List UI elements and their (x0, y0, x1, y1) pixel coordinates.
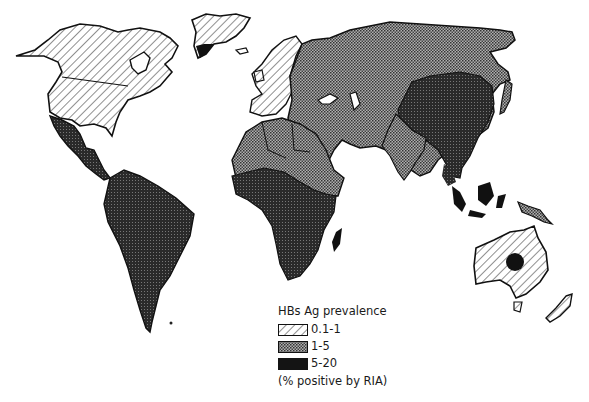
stipple-swatch-icon (278, 341, 308, 353)
legend-title: HBs Ag prevalence (278, 303, 387, 320)
region-south-america (104, 170, 194, 332)
region-japan (500, 80, 512, 114)
region-central-australia-high (506, 253, 524, 271)
legend-label-high: 5-20 (311, 355, 337, 372)
region-north-america (16, 24, 178, 136)
hatch-swatch-icon (278, 324, 308, 336)
region-indonesia (452, 182, 506, 218)
legend-item-low: 0.1-1 (278, 321, 387, 338)
region-new-zealand (546, 294, 572, 322)
legend-item-high: 5-20 (278, 355, 387, 372)
legend-note: (% positive by RIA) (278, 373, 387, 390)
legend-label-intermediate: 1-5 (311, 338, 330, 355)
solid-swatch-icon (278, 358, 308, 370)
legend-item-intermediate: 1-5 (278, 338, 387, 355)
region-new-guinea (518, 202, 552, 224)
map-legend: HBs Ag prevalence 0.1-1 1-5 5-20 (% posi… (278, 303, 387, 390)
legend-label-low: 0.1-1 (311, 321, 341, 338)
region-tasmania (514, 302, 522, 312)
region-madagascar (332, 228, 342, 252)
